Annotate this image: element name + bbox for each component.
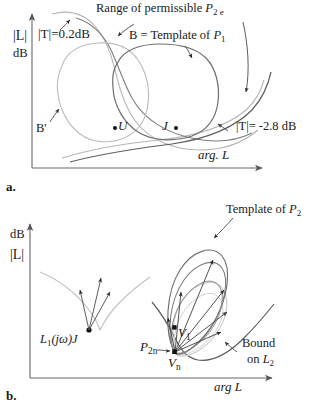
panel-b-arrow-bound-l2 bbox=[225, 342, 237, 352]
panel-a-point-u bbox=[113, 126, 117, 130]
panel-a-point-j bbox=[174, 126, 178, 130]
figure-root: Range of permissible P2 e B = Template o… bbox=[0, 0, 316, 411]
panel-b-y-axis-line1: dB bbox=[10, 228, 25, 241]
panel-a-point-u-label: U bbox=[118, 119, 127, 133]
panel-b-arrow-template-p2 bbox=[214, 218, 233, 238]
panel-b-point-v1 bbox=[172, 325, 176, 329]
panel-a-letter: a. bbox=[6, 180, 16, 194]
panel-b-arrow-p2n bbox=[157, 350, 170, 351]
panel-a-t-upper-label: |T|=0.2dB bbox=[38, 27, 90, 41]
panel-a-range-permissible-label: Range of permissible P2 e bbox=[96, 2, 224, 17]
panel-b-point-vn bbox=[172, 349, 177, 354]
panel-a-template-b-prime bbox=[57, 43, 148, 142]
panel-a-t-lower-label: |T|= -2.8 dB bbox=[236, 120, 296, 133]
panel-a-template-b-label: B = Template of P1 bbox=[129, 29, 226, 44]
panel-b-bound-l2-label-line1: Bound bbox=[242, 337, 275, 350]
panel-a-point-j-label: J bbox=[162, 119, 168, 133]
panel-b-template-p2-label: Template of P2 bbox=[226, 203, 301, 218]
panel-a-arrow-range-permissible bbox=[243, 22, 248, 92]
panel-b-x-axis-label: arg L bbox=[214, 380, 242, 394]
panel-b-nominal-curve-label: L1(jω)J bbox=[40, 333, 78, 348]
panel-a-y-axis-line2: dB bbox=[13, 47, 28, 60]
panel-b-v1-label: V1 bbox=[178, 326, 191, 342]
panel-b-letter: b. bbox=[6, 389, 16, 403]
panel-a-y-axis-line1: |L| bbox=[13, 29, 27, 44]
panel-a-x-axis-label: arg. L bbox=[198, 148, 229, 162]
panel-a-arrow-b-prime bbox=[50, 109, 59, 122]
panel-b-arrows-from-vn bbox=[168, 260, 227, 352]
panel-b-p2n-label: P2n bbox=[140, 340, 157, 356]
panel-b-left-bound-curve bbox=[40, 272, 150, 330]
panel-b-vn-label: Vn bbox=[168, 356, 181, 372]
panel-b-bound-l2-label-line2: on L2 bbox=[247, 353, 274, 368]
panel-b-y-axis-line2: |L| bbox=[10, 248, 24, 263]
panel-a-b-prime-label: B' bbox=[36, 122, 47, 135]
